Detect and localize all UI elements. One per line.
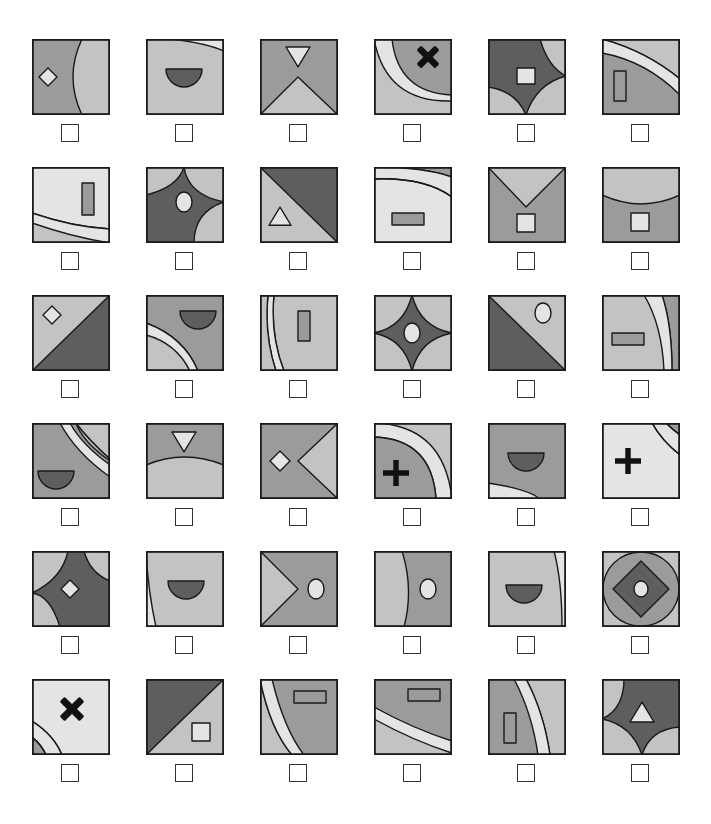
select-checkbox[interactable] <box>175 252 193 270</box>
puzzle-tile-image[interactable] <box>602 679 680 755</box>
puzzle-tile-image[interactable] <box>374 167 452 243</box>
select-checkbox[interactable] <box>517 508 535 526</box>
puzzle-cell <box>602 39 680 149</box>
puzzle-cell <box>32 551 110 661</box>
rectangle-icon <box>408 689 440 701</box>
select-checkbox[interactable] <box>61 636 79 654</box>
puzzle-tile-image[interactable] <box>32 295 110 371</box>
select-checkbox[interactable] <box>403 380 421 398</box>
puzzle-tile-image[interactable] <box>374 423 452 499</box>
select-checkbox[interactable] <box>631 764 649 782</box>
circle-icon <box>176 192 192 212</box>
puzzle-tile-image[interactable] <box>488 679 566 755</box>
select-checkbox[interactable] <box>631 124 649 142</box>
select-checkbox[interactable] <box>631 636 649 654</box>
puzzle-cell <box>374 39 452 149</box>
select-checkbox[interactable] <box>61 124 79 142</box>
select-checkbox[interactable] <box>403 636 421 654</box>
puzzle-tile-image[interactable] <box>488 167 566 243</box>
select-checkbox[interactable] <box>517 636 535 654</box>
puzzle-tile-image[interactable] <box>602 39 680 115</box>
select-checkbox[interactable] <box>61 764 79 782</box>
rectangle-icon <box>614 71 626 101</box>
puzzle-cell <box>602 679 680 789</box>
puzzle-cell <box>146 423 224 533</box>
puzzle-cell <box>374 167 452 277</box>
puzzle-cell <box>146 295 224 405</box>
circle-icon <box>535 303 551 323</box>
select-checkbox[interactable] <box>403 252 421 270</box>
select-checkbox[interactable] <box>403 764 421 782</box>
puzzle-cell <box>260 39 338 149</box>
select-checkbox[interactable] <box>289 508 307 526</box>
puzzle-cell <box>32 167 110 277</box>
puzzle-tile-image[interactable] <box>260 167 338 243</box>
puzzle-tile-image[interactable] <box>374 679 452 755</box>
select-checkbox[interactable] <box>403 124 421 142</box>
select-checkbox[interactable] <box>517 380 535 398</box>
select-checkbox[interactable] <box>403 508 421 526</box>
puzzle-tile-image[interactable] <box>146 295 224 371</box>
puzzle-tile-image[interactable] <box>146 679 224 755</box>
select-checkbox[interactable] <box>175 636 193 654</box>
puzzle-cell <box>602 167 680 277</box>
circle-icon <box>308 579 324 599</box>
puzzle-tile-image[interactable] <box>260 551 338 627</box>
puzzle-cell <box>488 423 566 533</box>
select-checkbox[interactable] <box>61 380 79 398</box>
puzzle-tile-image[interactable] <box>32 39 110 115</box>
puzzle-tile-image[interactable] <box>146 167 224 243</box>
puzzle-cell <box>488 551 566 661</box>
puzzle-tile-image[interactable] <box>488 551 566 627</box>
select-checkbox[interactable] <box>61 508 79 526</box>
puzzle-tile-image[interactable] <box>488 295 566 371</box>
select-checkbox[interactable] <box>289 252 307 270</box>
puzzle-tile-image[interactable] <box>260 39 338 115</box>
puzzle-tile-image[interactable] <box>374 295 452 371</box>
puzzle-tile-image[interactable] <box>260 679 338 755</box>
puzzle-tile-image[interactable] <box>146 551 224 627</box>
puzzle-tile-image[interactable] <box>602 423 680 499</box>
select-checkbox[interactable] <box>175 124 193 142</box>
puzzle-tile-image[interactable] <box>146 39 224 115</box>
puzzle-tile-image[interactable] <box>488 39 566 115</box>
puzzle-tile-image[interactable] <box>32 551 110 627</box>
puzzle-tile-image[interactable] <box>260 423 338 499</box>
puzzle-cell <box>146 551 224 661</box>
select-checkbox[interactable] <box>631 380 649 398</box>
puzzle-cell <box>374 295 452 405</box>
select-checkbox[interactable] <box>631 508 649 526</box>
puzzle-tile-image[interactable] <box>32 167 110 243</box>
puzzle-tile-image[interactable] <box>32 423 110 499</box>
rectangle-icon <box>517 68 535 84</box>
select-checkbox[interactable] <box>631 252 649 270</box>
puzzle-tile-image[interactable] <box>260 295 338 371</box>
puzzle-tile-image[interactable] <box>374 39 452 115</box>
puzzle-tile-image[interactable] <box>488 423 566 499</box>
puzzle-tile-image[interactable] <box>602 295 680 371</box>
puzzle-cell <box>260 423 338 533</box>
select-checkbox[interactable] <box>289 380 307 398</box>
puzzle-tile-image[interactable] <box>602 167 680 243</box>
select-checkbox[interactable] <box>289 764 307 782</box>
puzzle-tile-image[interactable] <box>32 679 110 755</box>
puzzle-grid <box>0 0 711 824</box>
region-shape <box>146 457 224 499</box>
select-checkbox[interactable] <box>517 124 535 142</box>
puzzle-tile-image[interactable] <box>374 551 452 627</box>
select-checkbox[interactable] <box>289 636 307 654</box>
select-checkbox[interactable] <box>517 252 535 270</box>
puzzle-cell <box>488 679 566 789</box>
select-checkbox[interactable] <box>289 124 307 142</box>
puzzle-cell <box>32 39 110 149</box>
select-checkbox[interactable] <box>175 764 193 782</box>
select-checkbox[interactable] <box>175 508 193 526</box>
region-shape <box>374 551 409 627</box>
puzzle-tile-image[interactable] <box>146 423 224 499</box>
puzzle-tile-image[interactable] <box>602 551 680 627</box>
select-checkbox[interactable] <box>61 252 79 270</box>
select-checkbox[interactable] <box>175 380 193 398</box>
puzzle-cell <box>374 551 452 661</box>
select-checkbox[interactable] <box>517 764 535 782</box>
rectangle-icon <box>82 183 94 215</box>
